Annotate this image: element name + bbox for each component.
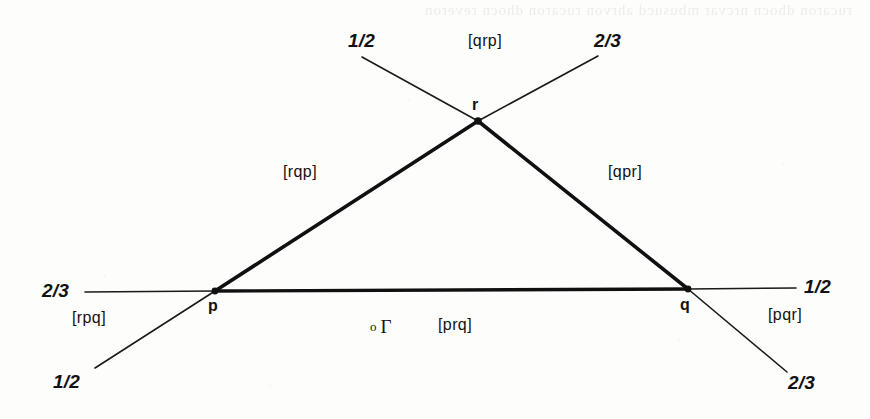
fraction-left: 2/3 <box>42 280 69 302</box>
triangle-edges <box>215 121 688 291</box>
fraction-top-right: 2/3 <box>594 30 621 52</box>
vertex-dots <box>212 117 692 294</box>
edge-rq <box>478 121 688 289</box>
ext-qr-up-line <box>362 57 478 121</box>
ext-pr-up-line <box>478 56 598 121</box>
region-qrp: [qrp] <box>468 32 502 50</box>
origin-dot-glyph: o <box>370 319 378 335</box>
edge-pq <box>215 289 688 291</box>
vertex-label-r: r <box>472 96 478 114</box>
fraction-right: 1/2 <box>804 276 831 298</box>
origin-marker: o Γ <box>370 316 392 338</box>
ext-pr-down-line <box>95 291 215 368</box>
vertex-dot-r <box>474 117 482 125</box>
vertex-label-p: p <box>208 297 218 315</box>
vertex-label-q: q <box>680 296 690 314</box>
region-pqr: [pqr] <box>768 306 802 324</box>
fraction-bottom-right: 2/3 <box>788 372 815 394</box>
fraction-top-left: 1/2 <box>348 30 375 52</box>
geometry-figure <box>0 0 870 419</box>
ext-pq-left-line <box>85 291 215 292</box>
region-prq: [prq] <box>438 316 472 334</box>
region-rqp: [rqp] <box>283 163 317 181</box>
ext-qr-down-line <box>688 289 787 372</box>
ext-pq-right-line <box>688 288 796 289</box>
region-qpr: [qpr] <box>608 163 642 181</box>
vertex-dot-q <box>685 286 692 293</box>
region-rpq: [rpq] <box>72 309 106 327</box>
fraction-bottom-left: 1/2 <box>53 371 80 393</box>
figure-page: rucaron dhocn nrcvar mbusucd ahrvon ruca… <box>0 0 870 419</box>
vertex-dot-p <box>212 288 219 295</box>
edge-pr <box>215 121 478 291</box>
gamma-icon: Γ <box>381 316 393 338</box>
